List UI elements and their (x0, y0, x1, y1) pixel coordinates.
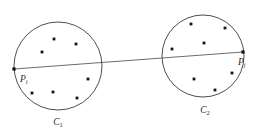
data-point (52, 91, 55, 94)
data-point (224, 27, 227, 30)
endpoint-label-pj: Pj (237, 57, 246, 68)
connector-line-pi-pj (14, 52, 243, 69)
data-point (53, 38, 56, 41)
diagram-canvas: Pi Pj C1 C2 (0, 0, 258, 137)
cluster-diagram: Pi Pj C1 C2 (0, 0, 258, 137)
data-point (190, 23, 193, 26)
data-point (193, 78, 196, 81)
data-point (41, 51, 44, 54)
endpoint-dot-pi (12, 67, 15, 70)
data-point (31, 92, 34, 95)
data-point (76, 97, 79, 100)
cluster-label-c2: C2 (200, 105, 210, 116)
data-point (75, 43, 78, 46)
data-point (231, 72, 234, 75)
point-group-c1 (31, 38, 90, 100)
cluster-circle-c2 (162, 15, 244, 97)
data-point (203, 42, 206, 45)
data-point (87, 78, 90, 81)
data-point (171, 48, 174, 51)
data-point (214, 89, 217, 92)
endpoint-dot-pj (241, 50, 244, 53)
cluster-label-c1: C1 (53, 117, 63, 128)
endpoint-label-pi: Pi (19, 74, 28, 85)
